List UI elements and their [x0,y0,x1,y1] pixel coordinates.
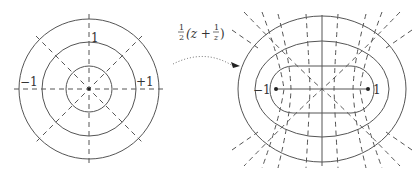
label-top-1: 1 [91,31,99,45]
origin-dot [87,87,91,91]
left-diagram [14,14,164,166]
arrowhead-icon [231,62,240,68]
label-right-minus-1: −1 [253,83,271,97]
dotted-arc [173,56,233,66]
focus-left-dot [274,87,278,91]
svg-text:): ) [220,27,225,41]
label-right-1: 1 [373,83,381,97]
joukowski-map-diagram: 1 −1 +1 1 2 (z + 1 z ) [0,0,419,177]
mapping-formula: 1 2 (z + 1 z ) [178,23,225,42]
label-minus-1: −1 [20,75,38,89]
svg-text:1: 1 [214,23,219,32]
svg-text:z: z [213,33,219,42]
svg-text:1: 1 [179,23,184,32]
focus-right-dot [366,87,370,91]
label-plus-1: +1 [136,75,154,89]
mapping-arrow [173,56,240,68]
svg-text:(z +: (z + [186,27,211,41]
svg-text:2: 2 [179,33,184,42]
